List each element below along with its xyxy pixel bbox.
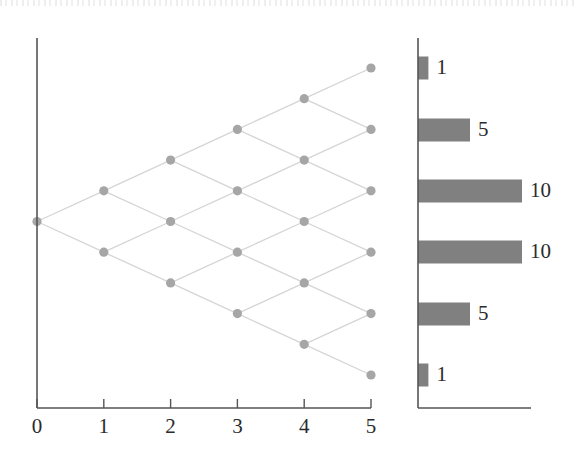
lattice-node [233,309,242,318]
binomial-lattice-figure: 012345 15101051 [0,0,575,465]
x-axis-tick-group [37,399,371,408]
bar [418,180,522,203]
lattice-edge [237,252,304,283]
bar-value-label: 10 [530,180,551,201]
lattice-node [366,248,375,257]
lattice-node [233,248,242,257]
lattice-edge [171,160,238,191]
lattice-edge [237,222,304,253]
lattice-edge [304,191,371,222]
lattice-node [300,340,309,349]
lattice-edge [171,252,238,283]
lattice-edge [237,160,304,191]
lattice-node [233,125,242,134]
bar-axis-group [418,38,531,408]
x-axis-tick-label-1: 1 [89,416,119,437]
bar-value-label: 1 [436,57,447,78]
lattice-edge [171,191,238,222]
bar-value-label: 5 [478,119,489,140]
lattice-edge [237,283,304,314]
lattice-edge [304,283,371,314]
lattice-edge [171,283,238,314]
bar-value-label: 10 [530,241,551,262]
lattice-edge [237,191,304,222]
lattice-node [166,156,175,165]
lattice-node [366,186,375,195]
bar-chart-plot [400,0,575,465]
lattice-node [366,309,375,318]
lattice-node [300,217,309,226]
x-axis-tick-label-2: 2 [156,416,186,437]
x-axis-tick-label-5: 5 [356,416,386,437]
lattice-node [99,248,108,257]
lattice-edge [304,99,371,130]
lattice-edge [171,222,238,253]
x-axis-tick-label-3: 3 [222,416,252,437]
lattice-edge [304,252,371,283]
lattice-edge [37,222,104,253]
lattice-node [300,156,309,165]
lattice-edge [304,129,371,160]
lattice-node [300,278,309,287]
bar [418,57,428,80]
lattice-edge [304,314,371,345]
lattice-panel: 012345 [0,0,400,465]
lattice-edge [237,129,304,160]
lattice-node [366,63,375,72]
lattice-edge [104,191,171,222]
bar [418,119,470,142]
lattice-edge [37,191,104,222]
lattice-edge [304,344,371,375]
bar [418,241,522,264]
lattice-edge [171,129,238,160]
lattice-edge-group [37,68,371,375]
lattice-edge [304,222,371,253]
bar [418,364,428,387]
lattice-node [233,186,242,195]
lattice-node [99,186,108,195]
x-axis-tick-label-0: 0 [22,416,52,437]
lattice-node [166,278,175,287]
lattice-edge [237,314,304,345]
lattice-plot [0,0,400,465]
lattice-edge [104,222,171,253]
lattice-node [366,125,375,134]
bar-chart-panel: 15101051 [400,0,575,465]
x-axis-tick-label-4: 4 [289,416,319,437]
lattice-node [166,217,175,226]
lattice-edge [104,160,171,191]
lattice-node [366,370,375,379]
bar-value-label: 1 [436,364,447,385]
lattice-edge [304,160,371,191]
bar-value-label: 5 [478,303,489,324]
lattice-edge [104,252,171,283]
lattice-node [300,94,309,103]
bar [418,303,470,326]
lattice-edge [304,68,371,99]
lattice-edge [237,99,304,130]
bar-group [418,57,522,387]
lattice-node-group [32,63,375,379]
